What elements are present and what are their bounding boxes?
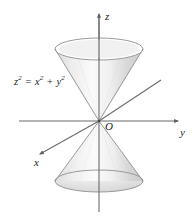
equation-label: z2 = x2 + y2 bbox=[14, 74, 65, 87]
equation-plus: + bbox=[46, 76, 53, 87]
x-axis-label: x bbox=[34, 156, 39, 168]
cone-diagram-svg bbox=[0, 0, 193, 220]
equation-x-exponent: 2 bbox=[40, 74, 44, 82]
z-axis-label: z bbox=[105, 10, 109, 22]
origin-label: O bbox=[105, 120, 113, 132]
cone-figure: z y x O z2 = x2 + y2 bbox=[0, 0, 193, 220]
y-axis-label: y bbox=[180, 126, 185, 138]
equation-equals: = bbox=[25, 76, 32, 87]
equation-z-exponent: 2 bbox=[18, 74, 22, 82]
origin-point bbox=[98, 120, 101, 123]
equation-y-exponent: 2 bbox=[61, 74, 65, 82]
